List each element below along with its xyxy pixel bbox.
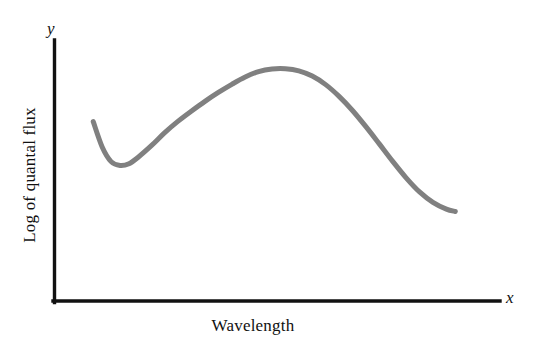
y-axis-variable-label: y: [47, 20, 55, 37]
x-axis-variable-label: x: [506, 289, 514, 306]
plot-area: [0, 0, 536, 359]
spectral-curve: [93, 69, 455, 212]
y-axis-title-container: Log of quantal flux: [18, 75, 42, 275]
y-axis-title: Log of quantal flux: [20, 107, 40, 243]
figure-canvas: y x Wavelength Log of quantal flux: [0, 0, 536, 359]
x-axis-title: Wavelength: [53, 316, 453, 336]
